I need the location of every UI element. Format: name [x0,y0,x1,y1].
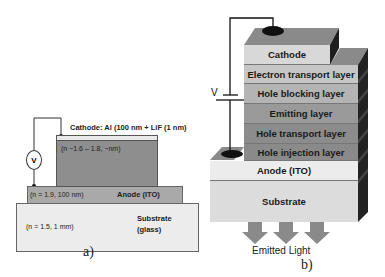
emitted-light-label: Emitted Light [252,245,310,256]
layer-hole-injection: Hole injection layer [244,144,358,161]
layer-substrate: Substrate [210,181,358,222]
voltage-label: V [211,87,218,98]
caption-b: b) [301,257,313,273]
layer-electron-transport: Electron transport layer [244,65,358,84]
layer-emitting: Emitting layer [244,104,358,124]
layer-anode: Anode (ITO) [210,161,358,181]
anode-contact-icon [221,150,243,158]
layer-hole-blocking: Hole blocking layer [244,84,358,104]
layer-hole-transport: Hole transport layer [244,124,358,144]
layer-cathode: Cathode [244,45,330,65]
emitted-light-arrows-icon [242,222,330,244]
